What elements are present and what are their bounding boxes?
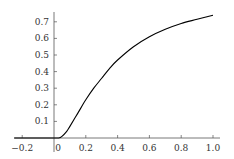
x-tick-label: −0.2 <box>11 143 33 153</box>
x-tick-label: 1.0 <box>206 143 221 153</box>
x-tick-label: 0.6 <box>142 143 157 153</box>
y-tick-label: 0.2 <box>35 100 49 110</box>
x-tick-label: 0.4 <box>110 143 125 153</box>
x-tick-label: 0.2 <box>79 143 93 153</box>
y-tick-label: 0.3 <box>35 83 50 93</box>
chart: −0.200.20.40.60.81.0 0.10.20.30.40.50.60… <box>0 0 234 159</box>
y-tick-label: 0.5 <box>35 50 50 60</box>
x-tick-label: 0 <box>55 143 61 153</box>
y-tick-label: 0.7 <box>35 17 50 27</box>
y-tick-label: 0.4 <box>35 67 50 77</box>
y-tick-label: 0.6 <box>35 33 50 43</box>
y-tick-label: 0.1 <box>35 116 49 126</box>
x-tick-label: 0.8 <box>174 143 189 153</box>
